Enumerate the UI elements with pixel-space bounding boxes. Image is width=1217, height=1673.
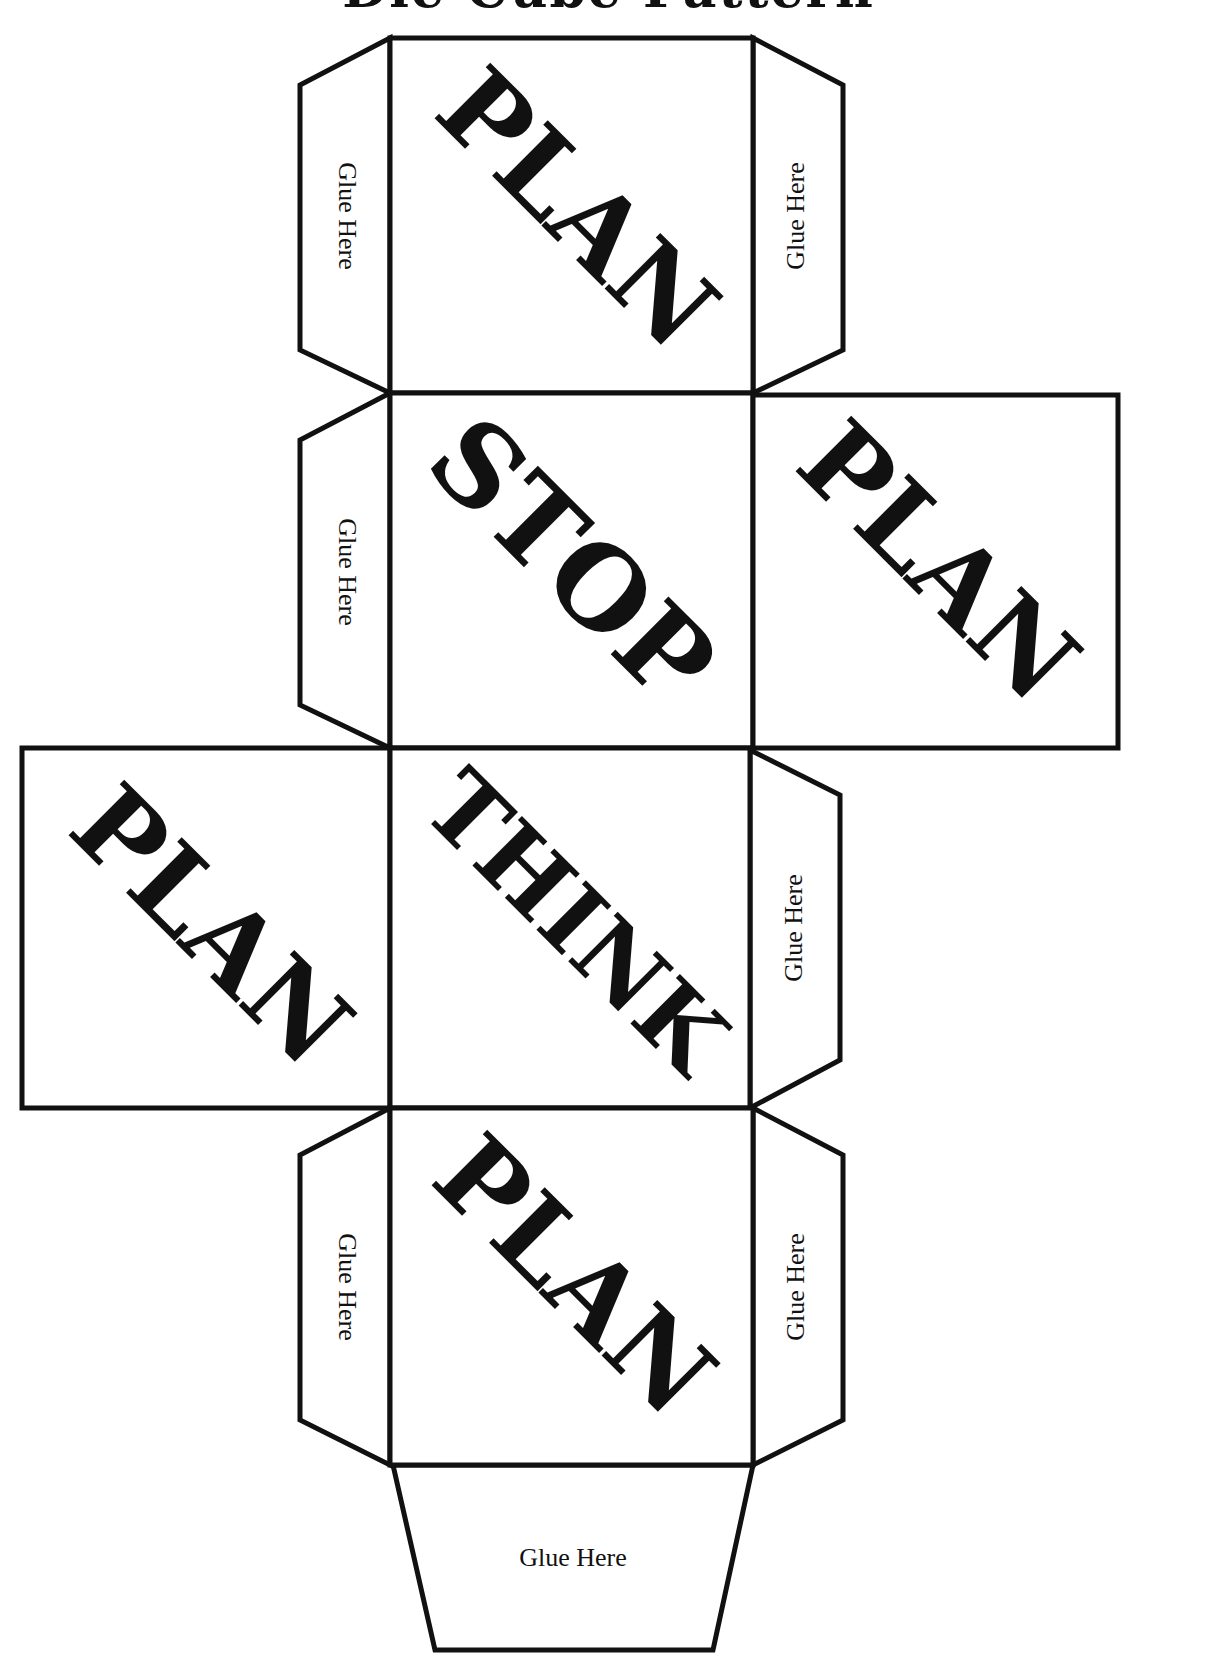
face-lower-left: PLAN (22, 748, 390, 1108)
glue-tab-top-left: Glue Here (300, 38, 390, 393)
glue-tab-label: Glue Here (781, 1233, 810, 1341)
glue-tab-label: Glue Here (781, 162, 810, 270)
face-upper-right: PLAN (753, 395, 1118, 748)
cube-net: Glue Here Glue Here Glue Here Glue Here … (0, 0, 1217, 1673)
face-upper-middle: STOP (390, 391, 753, 748)
glue-tab-label: Glue Here (333, 162, 362, 270)
glue-tab-label: Glue Here (519, 1543, 627, 1572)
glue-tab-top-right: Glue Here (753, 38, 843, 393)
glue-tab-bottom-right: Glue Here (753, 1108, 843, 1465)
glue-tab-upper-middle-left: Glue Here (300, 393, 390, 748)
glue-tab-label: Glue Here (333, 1233, 362, 1341)
glue-tab-label: Glue Here (333, 518, 362, 626)
glue-tab-label: Glue Here (779, 874, 808, 982)
glue-tab-bottom-left: Glue Here (300, 1108, 390, 1465)
face-top: PLAN (390, 38, 753, 393)
face-lower-middle: THINK (390, 748, 752, 1108)
glue-tab-bottom-base: Glue Here (393, 1465, 753, 1650)
glue-tab-lower-middle-right: Glue Here (750, 750, 840, 1108)
face-bottom: PLAN (390, 1108, 753, 1465)
